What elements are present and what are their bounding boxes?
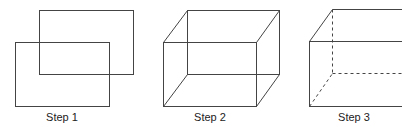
step-2-label: Step 2 (170, 111, 250, 123)
step-1-figure (16, 11, 134, 107)
hidden-edges (310, 10, 402, 107)
box-drawing-diagram (0, 0, 402, 127)
step-3-label: Step 3 (314, 111, 394, 123)
step-3-figure (310, 10, 402, 107)
step-1-label: Step 1 (22, 111, 102, 123)
step-2-figure (164, 11, 280, 107)
